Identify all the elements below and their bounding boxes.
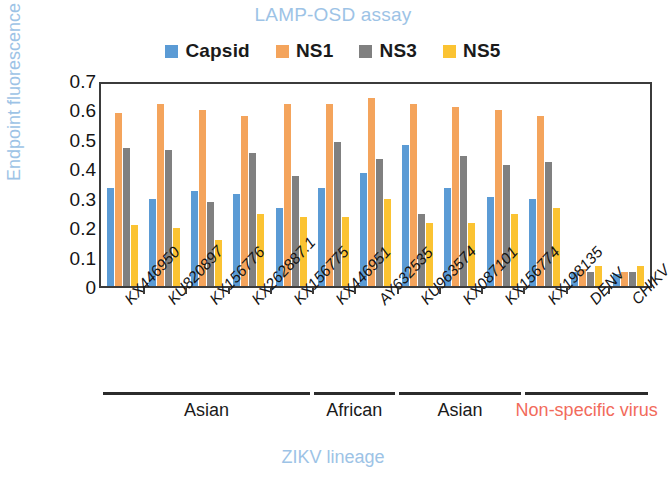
x-tick-mark: [523, 288, 525, 294]
legend-label: Capsid: [185, 40, 250, 62]
x-tick-mark: [185, 288, 187, 294]
group-bracket-line: [399, 392, 522, 395]
x-axis-title: ZIKV lineage: [0, 447, 666, 468]
group-bracket-line: [525, 392, 648, 395]
group-bracket-line: [103, 392, 310, 395]
x-tick-mark: [354, 288, 356, 294]
legend-label: NS5: [463, 40, 501, 62]
x-tick-mark: [228, 288, 230, 294]
legend-swatch-ns3-icon: [359, 45, 372, 58]
bar-group: [101, 84, 143, 286]
x-tick-mark: [312, 288, 314, 294]
group-bracket-label: African: [314, 400, 394, 420]
group-bracket-label: Asian: [103, 400, 310, 420]
group-bracket-label: Non-specific virus: [511, 400, 662, 420]
legend-item-capsid[interactable]: Capsid: [165, 40, 250, 62]
legend-item-ns3[interactable]: NS3: [359, 40, 417, 62]
y-tick-label: 0.3: [70, 189, 96, 211]
group-bracket-line: [314, 392, 394, 395]
legend-swatch-ns1-icon: [276, 45, 289, 58]
chart-legend: CapsidNS1NS3NS5: [0, 40, 666, 62]
legend-swatch-capsid-icon: [165, 45, 178, 58]
y-axis-ticks: 0.70.60.50.40.30.20.10: [36, 82, 96, 288]
group-bracket-label: Asian: [399, 400, 522, 420]
legend-item-ns1[interactable]: NS1: [276, 40, 334, 62]
legend-label: NS3: [379, 40, 417, 62]
bar-ns5[interactable]: [384, 199, 391, 286]
y-tick-label: 0.5: [70, 130, 96, 152]
x-tick-mark: [143, 288, 145, 294]
x-tick-mark: [397, 288, 399, 294]
bar-ns1[interactable]: [115, 113, 122, 286]
x-tick-mark: [439, 288, 441, 294]
y-axis-title: Endpoint fluorescence: [4, 0, 28, 200]
y-tick-label: 0.4: [70, 159, 96, 181]
x-tick-mark: [270, 288, 272, 294]
y-tick-label: 0.6: [70, 100, 96, 122]
x-tick-mark: [608, 288, 610, 294]
x-tick-mark: [566, 288, 568, 294]
y-tick-label: 0.1: [70, 248, 96, 270]
bar-capsid[interactable]: [107, 188, 114, 286]
bar-group: [608, 84, 650, 286]
legend-item-ns5[interactable]: NS5: [443, 40, 501, 62]
y-tick-label: 0.2: [70, 218, 96, 240]
y-tick-label: 0.7: [70, 71, 96, 93]
bar-ns3[interactable]: [629, 272, 636, 286]
legend-label: NS1: [296, 40, 334, 62]
bar-ns3[interactable]: [123, 148, 130, 287]
x-tick-mark: [481, 288, 483, 294]
chart-title: LAMP-OSD assay: [0, 4, 666, 26]
x-axis-category-labels: KX446950KU820897KX156776KX262887.1KX1567…: [0, 292, 666, 388]
bar-ns5[interactable]: [131, 225, 138, 286]
legend-swatch-ns5-icon: [443, 45, 456, 58]
